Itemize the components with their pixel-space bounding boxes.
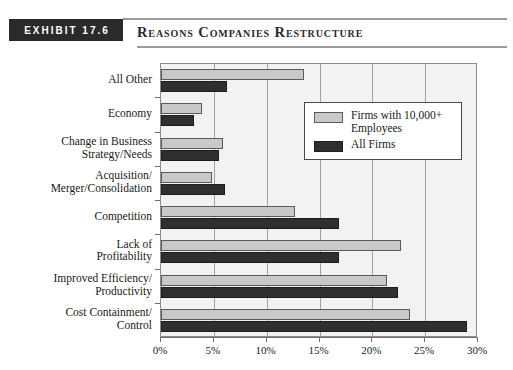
- header-rule-bottom: [137, 46, 507, 48]
- bar-large-firms: [161, 275, 387, 286]
- y-axis-label-line: Competition: [0, 210, 152, 223]
- bar-all-firms: [161, 115, 194, 126]
- page-title: Reasons Companies Restructure: [137, 21, 507, 43]
- chart-legend: Firms with 10,000+ Employees All Firms: [304, 102, 462, 160]
- y-axis-label-line: Control: [0, 319, 152, 332]
- y-axis-label: Change in BusinessStrategy/Needs: [0, 135, 152, 160]
- x-axis-tick-label: 20%: [351, 344, 391, 356]
- bar-row: [161, 304, 476, 338]
- bar-large-firms: [161, 172, 212, 183]
- y-axis-label-line: All Other: [0, 73, 152, 86]
- y-axis-label: Competition: [0, 210, 152, 223]
- bar-large-firms: [161, 240, 401, 251]
- bar-all-firms: [161, 150, 219, 161]
- y-axis-label-line: Strategy/Needs: [0, 148, 152, 161]
- y-axis-label: Improved Efficiency/Productivity: [0, 272, 152, 297]
- legend-swatch-large-firms: [314, 112, 343, 123]
- y-axis-label-line: Merger/Consolidation: [0, 182, 152, 195]
- y-axis-label-line: Economy: [0, 107, 152, 120]
- bar-row: [161, 167, 476, 201]
- bar-all-firms: [161, 81, 227, 92]
- bar-row: [161, 64, 476, 98]
- bar-large-firms: [161, 206, 295, 217]
- y-axis-label: Cost Containment/Control: [0, 306, 152, 331]
- x-axis-tick: [213, 337, 214, 342]
- exhibit-number-badge: EXHIBIT 17.6: [9, 19, 123, 41]
- bar-row: [161, 235, 476, 269]
- y-axis-label: Economy: [0, 107, 152, 120]
- bar-row: [161, 270, 476, 304]
- x-axis-tick-label: 30%: [457, 344, 497, 356]
- bar-large-firms: [161, 138, 223, 149]
- y-axis-label-line: Change in Business: [0, 135, 152, 148]
- x-axis-tick-label: 25%: [404, 344, 444, 356]
- x-axis-tick-label: 10%: [246, 344, 286, 356]
- y-axis-label-line: Cost Containment/: [0, 306, 152, 319]
- x-axis-tick: [477, 337, 478, 342]
- bar-all-firms: [161, 321, 467, 332]
- bar-row: [161, 201, 476, 235]
- y-axis-label-line: Lack of: [0, 238, 152, 251]
- x-axis-tick-label: 0%: [140, 344, 180, 356]
- exhibit-page: EXHIBIT 17.6 Reasons Companies Restructu…: [0, 0, 513, 370]
- y-axis-label-line: Productivity: [0, 285, 152, 298]
- bar-all-firms: [161, 252, 339, 263]
- exhibit-header: EXHIBIT 17.6 Reasons Companies Restructu…: [0, 16, 513, 48]
- legend-label-all-firms: All Firms: [351, 138, 467, 151]
- y-axis-label: All Other: [0, 73, 152, 86]
- x-axis-tick: [424, 337, 425, 342]
- header-rule-top: [123, 18, 507, 20]
- x-axis-tick-label: 5%: [193, 344, 233, 356]
- y-axis-label-line: Acquisition/: [0, 169, 152, 182]
- bar-all-firms: [161, 184, 225, 195]
- y-axis-label: Lack ofProfitability: [0, 238, 152, 263]
- bar-all-firms: [161, 287, 398, 298]
- x-axis-tick: [160, 337, 161, 342]
- x-axis-tick: [266, 337, 267, 342]
- bar-all-firms: [161, 218, 339, 229]
- legend-swatch-all-firms: [314, 141, 343, 152]
- bar-large-firms: [161, 103, 202, 114]
- y-axis-label: Acquisition/Merger/Consolidation: [0, 169, 152, 194]
- bar-large-firms: [161, 69, 304, 80]
- x-axis-tick-label: 15%: [299, 344, 339, 356]
- y-axis-label-line: Improved Efficiency/: [0, 272, 152, 285]
- exhibit-number-label: EXHIBIT 17.6: [22, 25, 110, 36]
- x-axis-tick: [319, 337, 320, 342]
- x-axis-tick: [371, 337, 372, 342]
- y-axis-labels: All OtherEconomyChange in BusinessStrate…: [0, 63, 156, 337]
- y-axis-label-line: Profitability: [0, 250, 152, 263]
- legend-label-large-firms: Firms with 10,000+ Employees: [351, 109, 467, 135]
- bar-large-firms: [161, 309, 410, 320]
